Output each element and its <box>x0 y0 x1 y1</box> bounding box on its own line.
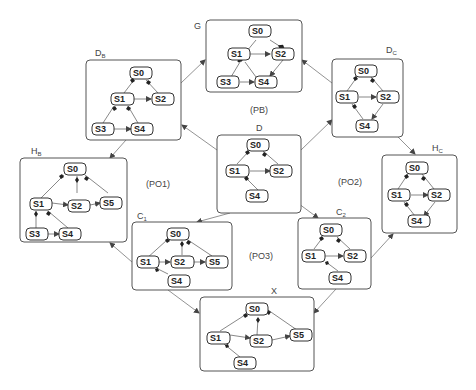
svg-text:S1: S1 <box>231 49 242 59</box>
svg-text:S2: S2 <box>253 336 264 346</box>
svg-text:S1: S1 <box>339 92 350 102</box>
svg-text:S1: S1 <box>210 333 221 343</box>
conn-C1-X <box>168 290 199 313</box>
state-S4: S4 <box>408 215 430 227</box>
state-S0: S0 <box>320 224 342 236</box>
label-C2: C2 <box>336 207 347 218</box>
graph-G: G S0 S1 S2 S3 S4 <box>194 20 302 92</box>
state-S4: S4 <box>255 76 277 88</box>
label-PB: (PB) <box>250 105 268 115</box>
svg-text:S0: S0 <box>170 229 181 239</box>
svg-text:S4: S4 <box>411 216 422 226</box>
state-S2: S2 <box>171 256 194 268</box>
svg-text:S5: S5 <box>209 257 220 267</box>
conn-DB-HB <box>110 140 126 158</box>
graph-C1: C1 S0 S1 S2 S5 S4 <box>132 211 232 290</box>
graph-X: X S0 S1 S2 S5 S4 <box>200 286 314 371</box>
svg-text:S1: S1 <box>114 94 125 104</box>
svg-text:S2: S2 <box>71 201 82 211</box>
svg-text:S2: S2 <box>155 94 166 104</box>
state-S2: S2 <box>152 93 174 105</box>
svg-text:S5: S5 <box>293 330 304 340</box>
state-S0: S0 <box>167 228 189 240</box>
label-PO2: (PO2) <box>338 177 362 187</box>
graph-DB: DB S0 S1 S2 S3 S4 <box>86 48 181 140</box>
state-S3: S3 <box>92 123 114 135</box>
svg-text:S0: S0 <box>67 164 78 174</box>
svg-text:S3: S3 <box>95 124 106 134</box>
svg-text:S1: S1 <box>391 190 402 200</box>
svg-text:S3: S3 <box>220 77 231 87</box>
state-S1: S1 <box>30 198 52 210</box>
state-S0: S0 <box>247 139 269 151</box>
label-PO1: (PO1) <box>146 179 170 189</box>
state-S1: S1 <box>302 250 325 262</box>
svg-text:S2: S2 <box>380 92 391 102</box>
label-DC: DC <box>386 45 398 56</box>
svg-text:S0: S0 <box>133 68 144 78</box>
state-S2: S2 <box>68 200 90 212</box>
state-S0: S0 <box>406 162 428 174</box>
state-S1: S1 <box>228 48 250 60</box>
svg-text:S1: S1 <box>229 166 240 176</box>
svg-text:S4: S4 <box>62 229 73 239</box>
state-S0: S0 <box>249 25 271 37</box>
svg-text:S2: S2 <box>275 49 286 59</box>
svg-text:S4: S4 <box>249 191 260 201</box>
label-PO3: (PO3) <box>249 251 273 261</box>
state-S1: S1 <box>111 93 134 105</box>
state-S4: S4 <box>329 272 351 284</box>
state-S4: S4 <box>234 357 256 369</box>
state-S2: S2 <box>250 335 272 347</box>
state-S3: S3 <box>217 76 239 88</box>
conn-C1-HB <box>110 243 132 262</box>
graph-HB: HB S0 S1 S2 S5 S3 S4 <box>20 146 127 242</box>
conn-C2-X <box>314 289 336 313</box>
state-S4: S4 <box>356 120 378 132</box>
state-S1: S1 <box>137 256 159 268</box>
svg-text:S2: S2 <box>347 251 358 261</box>
conn-D-DB <box>182 125 217 150</box>
state-S2: S2 <box>270 165 292 177</box>
state-S1: S1 <box>388 189 410 201</box>
state-S4: S4 <box>168 275 190 287</box>
conn-DB-G <box>181 60 205 83</box>
svg-text:S2: S2 <box>273 166 284 176</box>
svg-text:S0: S0 <box>409 163 420 173</box>
svg-text:S1: S1 <box>33 199 44 209</box>
label-D: D <box>256 123 263 133</box>
label-DB: DB <box>95 48 106 59</box>
state-S1: S1 <box>207 332 230 344</box>
graph-HC: HC S0 S1 S2 S4 <box>382 143 457 233</box>
lattice-diagram: G S0 S1 S2 S3 S4 DB S0 S1 S2 S3 S4 DC <box>0 0 476 390</box>
svg-text:S0: S0 <box>249 304 260 314</box>
svg-text:S0: S0 <box>323 225 334 235</box>
state-S0: S0 <box>355 65 377 77</box>
state-S0: S0 <box>64 163 86 175</box>
conn-D-C1 <box>197 213 230 222</box>
state-S1: S1 <box>226 165 249 177</box>
conn-DC-HC <box>398 137 415 154</box>
state-S5: S5 <box>100 197 122 209</box>
svg-text:S1: S1 <box>305 251 316 261</box>
conn-C2-HC <box>371 234 393 258</box>
state-S1: S1 <box>336 91 358 103</box>
label-G: G <box>194 21 201 31</box>
svg-text:S0: S0 <box>358 66 369 76</box>
svg-text:S1: S1 <box>140 257 151 267</box>
svg-text:S4: S4 <box>237 358 248 368</box>
state-S5: S5 <box>206 256 228 268</box>
label-C1: C1 <box>137 211 148 222</box>
conn-D-DC <box>301 120 332 150</box>
svg-text:S4: S4 <box>171 276 182 286</box>
state-S2: S2 <box>344 250 366 262</box>
svg-text:S4: S4 <box>258 77 269 87</box>
state-S2: S2 <box>377 91 399 103</box>
svg-text:S0: S0 <box>250 140 261 150</box>
svg-text:S4: S4 <box>134 124 145 134</box>
svg-text:S0: S0 <box>252 26 263 36</box>
conn-DC-G <box>302 60 332 83</box>
label-X: X <box>271 286 277 296</box>
graph-D: D S0 S1 S2 S4 <box>217 123 301 213</box>
state-S3: S3 <box>26 228 48 240</box>
